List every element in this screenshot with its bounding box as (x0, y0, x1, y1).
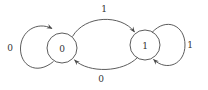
transition-q0-to-q0-edge (20, 26, 53, 68)
state-q1-label: 1 (142, 41, 148, 51)
automaton-svg: 0 1 0 1 1 0 (0, 0, 208, 90)
transition-q1-to-q0-edge (75, 58, 138, 70)
transition-q0-to-q1-label: 1 (101, 4, 107, 14)
transition-q1-to-q1-edge (152, 24, 185, 65)
transition-q0-to-q0-label: 0 (7, 43, 13, 53)
transition-q0-to-q1-edge (73, 19, 135, 36)
transition-q1-to-q0-label: 0 (98, 74, 104, 84)
transition-q1-to-q1-label: 1 (187, 40, 193, 50)
state-q0-label: 0 (59, 44, 65, 54)
automaton-diagram: 0 1 0 1 1 0 (0, 0, 208, 90)
